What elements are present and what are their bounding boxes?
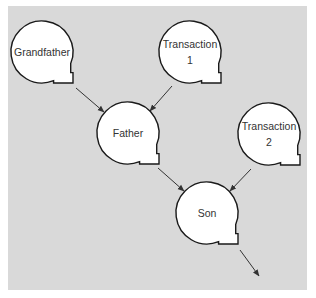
bubble-label: Son	[198, 207, 217, 219]
bubble-transaction2: Transaction2	[238, 103, 300, 165]
bubble-label: Father	[113, 127, 144, 139]
bubbles-group: GrandfatherTransaction1FatherTransaction…	[11, 21, 300, 244]
bubble-label: 2	[266, 136, 272, 148]
backup-rotation-diagram: GrandfatherTransaction1FatherTransaction…	[0, 0, 316, 298]
bubble-son: Son	[176, 182, 238, 244]
bubble-father: Father	[97, 102, 159, 164]
arrow-transaction1-to-father	[150, 86, 172, 111]
arrow-transaction2-to-son	[230, 169, 251, 191]
bubble-transaction1: Transaction1	[159, 21, 221, 83]
bubble-label: Transaction	[163, 38, 218, 50]
bubble-grandfather: Grandfather	[11, 21, 73, 83]
arrow-son-to-next	[240, 250, 259, 276]
arrow-grandfather-to-father	[76, 88, 104, 112]
arrow-father-to-son	[158, 168, 184, 191]
bubble-label: Transaction	[242, 120, 297, 132]
bubble-label: Grandfather	[14, 46, 71, 58]
speech-bubble-shape	[238, 103, 300, 165]
bubble-label: 1	[187, 54, 193, 66]
speech-bubble-shape	[159, 21, 221, 83]
